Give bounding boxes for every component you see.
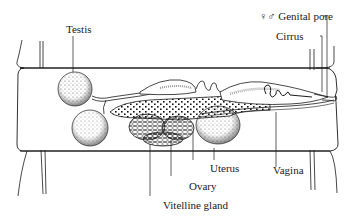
label-cirrus: Cirrus [276, 30, 304, 42]
testis-upper [58, 72, 92, 106]
label-uterus: Uterus [210, 162, 239, 174]
seminal-vesicle [140, 80, 196, 95]
label-testis: Testis [66, 23, 92, 35]
ovary-vitelline-complex [129, 114, 194, 146]
label-vitelline-gland: Vitelline gland [163, 199, 228, 211]
label-genital-pore: ♀♂ Genital pore [259, 10, 333, 22]
testis-lower [72, 110, 108, 146]
previous-segment [17, 40, 334, 70]
label-vagina: Vagina [273, 164, 304, 176]
label-ovary: Ovary [189, 180, 217, 192]
